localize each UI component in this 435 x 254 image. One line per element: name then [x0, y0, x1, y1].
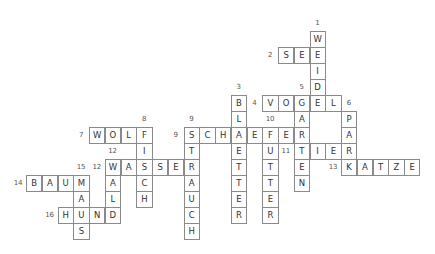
grid-cell[interactable]: C — [184, 207, 200, 224]
grid-cell[interactable]: W — [89, 127, 105, 144]
grid-cell[interactable]: L — [121, 127, 137, 144]
grid-cell[interactable]: R — [184, 159, 200, 176]
grid-cell[interactable]: B — [231, 95, 247, 112]
crossword-grid: WEIDESEBLAETTERVOGLARTENPARKWOLFISCHSCHE… — [0, 0, 435, 254]
clue-number-label: 16 — [42, 207, 58, 223]
grid-cell[interactable]: K — [341, 159, 357, 176]
grid-cell[interactable]: P — [341, 111, 357, 128]
grid-cell[interactable]: A — [42, 175, 58, 192]
clue-number-label: 8 — [136, 111, 152, 127]
grid-cell[interactable]: V — [262, 95, 278, 112]
grid-cell[interactable]: E — [294, 47, 310, 64]
grid-cell[interactable]: S — [278, 47, 294, 64]
grid-cell[interactable]: I — [136, 143, 152, 160]
grid-cell[interactable]: W — [105, 159, 121, 176]
grid-cell[interactable]: U — [58, 175, 74, 192]
grid-cell[interactable]: L — [105, 191, 121, 208]
grid-cell[interactable]: E — [325, 143, 341, 160]
grid-cell[interactable]: N — [89, 207, 105, 224]
grid-cell[interactable]: T — [294, 143, 310, 160]
grid-cell[interactable]: F — [262, 127, 278, 144]
clue-number-label: 6 — [341, 95, 357, 111]
grid-cell[interactable]: F — [136, 127, 152, 144]
grid-cell[interactable]: T — [262, 175, 278, 192]
grid-cell[interactable]: A — [357, 159, 373, 176]
grid-cell[interactable]: S — [136, 159, 152, 176]
clue-number-label: 7 — [73, 127, 89, 143]
grid-cell[interactable]: A — [341, 127, 357, 144]
grid-cell[interactable]: E — [310, 47, 326, 64]
grid-cell[interactable]: E — [310, 95, 326, 112]
grid-cell[interactable]: U — [73, 207, 89, 224]
grid-cell[interactable]: S — [184, 127, 200, 144]
grid-cell[interactable]: A — [105, 175, 121, 192]
grid-cell[interactable]: R — [262, 207, 278, 224]
clue-number-label: 1 — [310, 15, 326, 31]
grid-cell[interactable]: Z — [388, 159, 404, 176]
clue-number-label: 11 — [278, 143, 294, 159]
grid-cell[interactable]: S — [152, 159, 168, 176]
clue-number-label: 10 — [262, 111, 278, 127]
grid-cell[interactable]: R — [231, 207, 247, 224]
grid-cell[interactable]: E — [262, 191, 278, 208]
grid-cell[interactable]: W — [310, 31, 326, 48]
grid-cell[interactable]: E — [294, 159, 310, 176]
clue-number-label: 14 — [10, 175, 26, 191]
clue-number-label: 12 — [89, 159, 105, 175]
grid-cell[interactable]: H — [136, 191, 152, 208]
grid-cell[interactable]: T — [262, 159, 278, 176]
grid-cell[interactable]: U — [262, 143, 278, 160]
grid-cell[interactable]: B — [26, 175, 42, 192]
grid-cell[interactable]: E — [231, 191, 247, 208]
grid-cell[interactable]: E — [247, 127, 263, 144]
grid-cell[interactable]: A — [73, 191, 89, 208]
grid-cell[interactable]: C — [136, 175, 152, 192]
grid-cell[interactable]: L — [325, 95, 341, 112]
grid-cell[interactable]: E — [168, 159, 184, 176]
grid-cell[interactable]: A — [231, 127, 247, 144]
grid-cell[interactable]: U — [184, 191, 200, 208]
grid-cell[interactable]: D — [105, 207, 121, 224]
grid-cell[interactable]: T — [231, 159, 247, 176]
grid-cell[interactable]: A — [184, 175, 200, 192]
grid-cell[interactable]: R — [341, 143, 357, 160]
grid-cell[interactable]: S — [73, 223, 89, 240]
grid-cell[interactable]: T — [184, 143, 200, 160]
clue-number-label: 13 — [325, 159, 341, 175]
grid-cell[interactable]: M — [73, 175, 89, 192]
grid-cell[interactable]: I — [310, 63, 326, 80]
grid-cell[interactable]: T — [231, 175, 247, 192]
grid-cell[interactable]: E — [231, 143, 247, 160]
grid-cell[interactable]: H — [58, 207, 74, 224]
clue-number-label: 2 — [262, 47, 278, 63]
grid-cell[interactable]: H — [184, 223, 200, 240]
grid-cell[interactable]: I — [310, 143, 326, 160]
clue-number-label: 9 — [168, 127, 184, 143]
clue-number-label: 12 — [105, 143, 121, 159]
grid-cell[interactable]: D — [310, 79, 326, 96]
grid-cell[interactable]: O — [105, 127, 121, 144]
clue-number-label: 15 — [73, 159, 89, 175]
grid-cell[interactable]: A — [294, 111, 310, 128]
grid-cell[interactable]: T — [373, 159, 389, 176]
grid-cell[interactable]: G — [294, 95, 310, 112]
grid-cell[interactable]: O — [278, 95, 294, 112]
grid-cell[interactable]: L — [231, 111, 247, 128]
grid-cell[interactable]: R — [294, 127, 310, 144]
clue-number-label: 5 — [294, 79, 310, 95]
clue-number-label: 9 — [184, 111, 200, 127]
grid-cell[interactable]: C — [199, 127, 215, 144]
grid-cell[interactable]: N — [294, 175, 310, 192]
grid-cell[interactable]: E — [404, 159, 420, 176]
grid-cell[interactable]: A — [121, 159, 137, 176]
clue-number-label: 3 — [231, 79, 247, 95]
grid-cell[interactable]: H — [215, 127, 231, 144]
grid-cell[interactable]: E — [278, 127, 294, 144]
clue-number-label: 4 — [247, 95, 263, 111]
